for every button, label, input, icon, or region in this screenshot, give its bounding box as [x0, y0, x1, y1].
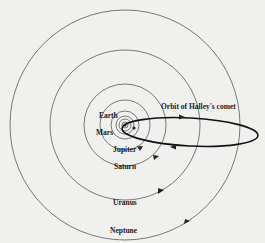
label-uranus: Uranus — [113, 198, 137, 207]
comet-arrow-top-icon — [179, 115, 185, 120]
comet-position-dot — [132, 126, 135, 129]
label-saturn: Saturn — [114, 162, 136, 171]
halley-comet-orbit — [121, 114, 258, 149]
label-jupiter: Jupiter — [113, 145, 136, 154]
label-earth: Earth — [99, 111, 118, 120]
label-mars: Mars — [96, 128, 113, 137]
label-neptune: Neptune — [110, 226, 137, 235]
jupiter-arrow-icon — [137, 146, 143, 151]
saturn-arrow-icon — [153, 155, 159, 160]
orbit-direction-arrows — [132, 115, 190, 225]
label-comet-orbit: Orbit of Halley's comet — [161, 102, 236, 111]
uranus-arrow-icon — [158, 188, 164, 194]
neptune-arrow-icon — [184, 219, 190, 224]
